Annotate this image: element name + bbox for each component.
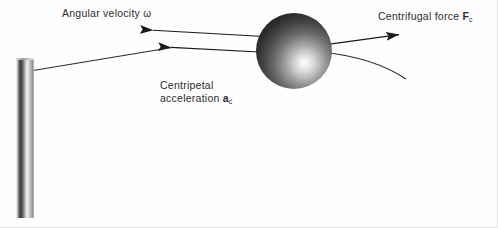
centripetal-acceleration-label: Centripetal acceleration ac <box>160 79 232 108</box>
trajectory-curve <box>322 52 406 79</box>
centripetal-acceleration-line1: Centripetal <box>160 79 214 91</box>
centrifugal-force-label: Centrifugal force Fc <box>378 10 472 26</box>
centripetal-acceleration-line2: acceleration <box>160 92 220 104</box>
angular-velocity-arrow <box>153 30 264 36</box>
acceleration-symbol-subscript: c <box>229 98 233 105</box>
centrifugal-force-text: Centrifugal force <box>378 10 459 22</box>
centripetal-acceleration-arrow <box>171 47 264 52</box>
string-to-pole <box>33 48 172 71</box>
vertical-pole <box>16 58 34 218</box>
force-symbol-subscript: c <box>469 16 473 23</box>
vector-layer <box>0 0 498 228</box>
pole-top-cap <box>16 58 34 60</box>
physics-diagram: Angular velocity ω Centrifugal force Fc … <box>0 0 498 228</box>
omega-symbol: ω <box>143 8 151 19</box>
centrifugal-force-arrow <box>326 35 399 45</box>
angular-velocity-label: Angular velocity ω <box>62 7 151 20</box>
angular-velocity-text: Angular velocity <box>62 7 140 19</box>
rotating-ball <box>256 13 332 89</box>
centripetal-acceleration-line2-wrap: acceleration ac <box>160 92 232 108</box>
